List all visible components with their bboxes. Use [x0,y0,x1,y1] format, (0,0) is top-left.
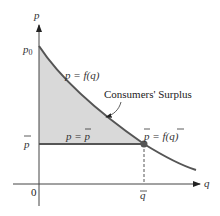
curve-label: p = f(q) [64,69,100,82]
price-line-label: p = p [65,130,90,142]
point-label: p = f(q) [143,130,179,143]
y-axis-label: p [33,9,40,21]
origin-label: 0 [31,186,37,198]
consumers-surplus-diagram: p q 0 p0 p q p = f(q) p = p p = f(q) Con… [0,0,220,216]
pbar-label: p [23,138,30,150]
region-label: Consumers' Surplus [104,88,192,100]
p0-label: p0 [22,43,33,57]
surplus-leader-line [106,102,121,117]
x-axis-label: q [204,177,210,189]
